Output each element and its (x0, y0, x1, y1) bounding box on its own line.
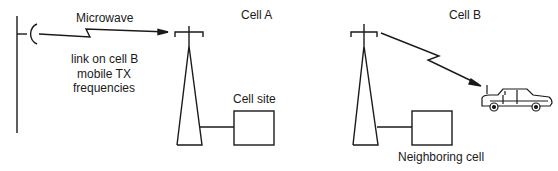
cell-site-label: Cell site (233, 92, 276, 106)
cell-b-label: Cell B (449, 8, 481, 22)
mobile-car-icon (482, 85, 552, 111)
neighboring-cell-label: Neighboring cell (398, 150, 484, 164)
microwave-label: Microwave (76, 11, 133, 25)
link-description-line3: frequencies (71, 81, 137, 95)
cell-b-tower-icon (351, 24, 378, 145)
cell-a-tower-icon (175, 26, 203, 145)
link-description-line2: mobile TX (71, 67, 137, 81)
radio-link-arrow-icon (381, 33, 481, 86)
cell-a-label: Cell A (241, 8, 272, 22)
microwave-dish-icon (17, 16, 37, 133)
neighboring-cell-box (412, 111, 452, 145)
microwave-link-arrow-icon (39, 29, 168, 37)
cell-site-box (234, 111, 274, 145)
cellular-interference-diagram: Microwave link on cell B mobile TX frequ… (0, 0, 558, 171)
link-description-line1: link on cell B (71, 52, 137, 66)
